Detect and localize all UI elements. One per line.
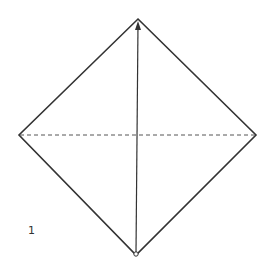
arrowhead-icon: [135, 21, 141, 30]
fold-origin-circle-icon: [134, 252, 138, 256]
step-number-label: 1: [28, 224, 35, 237]
fold-arrow-shaft: [136, 24, 138, 252]
fold-diagram: [0, 0, 272, 266]
